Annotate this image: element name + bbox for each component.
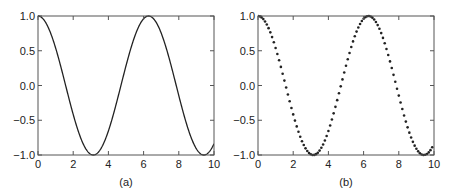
- x-tick-label: 6: [141, 158, 147, 170]
- y-tick-label: −1.0: [13, 149, 35, 161]
- y-tick-label: −1.0: [233, 149, 255, 161]
- y-tick-label: −0.5: [233, 114, 255, 126]
- x-tick-label: 0: [255, 158, 261, 170]
- x-tick-label: 6: [361, 158, 367, 170]
- x-tick-label: 2: [70, 158, 76, 170]
- panel-caption: (a): [119, 176, 132, 188]
- cosine-dots: [257, 15, 434, 157]
- axes-frame: [258, 16, 434, 155]
- x-tick-label: 10: [208, 158, 220, 170]
- plot-panel-b: 02468101.00.50.0−0.5−1.0(b): [233, 10, 440, 188]
- cosine-line: [38, 16, 214, 155]
- y-tick-label: 0.5: [20, 45, 35, 57]
- x-tick-label: 4: [105, 158, 111, 170]
- axes-frame: [38, 16, 214, 155]
- y-tick-label: 1.0: [20, 10, 35, 22]
- x-tick-label: 10: [428, 158, 440, 170]
- y-tick-label: 0.0: [240, 80, 255, 92]
- plot-panel-a: 02468101.00.50.0−0.5−1.0(a): [13, 10, 220, 188]
- x-tick-label: 8: [176, 158, 182, 170]
- x-tick-label: 2: [290, 158, 296, 170]
- x-tick-label: 0: [35, 158, 41, 170]
- x-tick-label: 4: [325, 158, 331, 170]
- figure: 02468101.00.50.0−0.5−1.0(a) 02468101.00.…: [0, 0, 453, 195]
- x-tick-label: 8: [396, 158, 402, 170]
- y-tick-label: −0.5: [13, 114, 35, 126]
- panel-caption: (b): [339, 176, 352, 188]
- y-tick-label: 0.5: [240, 45, 255, 57]
- y-tick-label: 0.0: [20, 80, 35, 92]
- y-tick-label: 1.0: [240, 10, 255, 22]
